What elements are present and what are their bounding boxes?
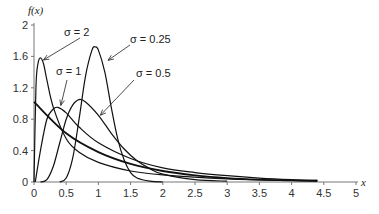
annotation-arrow (100, 80, 134, 115)
y-tick-label: 1.2 (13, 82, 28, 94)
chart: f(x) x 00.511.522.533.544.5500.40.81.21.… (0, 0, 379, 214)
curve-series (34, 102, 317, 181)
y-tick-label: 0 (22, 176, 28, 188)
annotation-arrow (43, 38, 80, 60)
arrowhead (43, 55, 49, 60)
y-tick-label: 1.6 (13, 50, 28, 62)
x-tick-label: 4.5 (316, 187, 331, 199)
x-tick-label: 4 (289, 187, 295, 199)
x-tick-label: 2.5 (187, 187, 202, 199)
x-tick-label: 0 (31, 187, 37, 199)
annotation-arrow (108, 45, 130, 60)
y-tick-label: 0.8 (13, 113, 28, 125)
curve-series (40, 99, 227, 182)
x-tick-label: 1.5 (123, 187, 138, 199)
arrowhead (108, 55, 114, 60)
annotation-sigma-0.25: σ = 0.25 (130, 33, 171, 45)
annotation-sigma-2: σ = 2 (64, 26, 89, 38)
annotation-sigma-1: σ = 1 (56, 65, 81, 77)
annotations: σ = 2 σ = 1 σ = 0.25 σ = 0.5 (43, 26, 170, 115)
x-tick-label: 5 (353, 187, 359, 199)
x-axis-label: x (360, 176, 366, 188)
x-tick-label: 3 (224, 187, 230, 199)
y-axis-label: f(x) (28, 4, 44, 17)
annotation-sigma-0.5: σ = 0.5 (136, 67, 171, 79)
x-tick-label: 2 (160, 187, 166, 199)
curve-series (35, 107, 317, 182)
x-tick-label: 3.5 (252, 187, 267, 199)
y-tick-label: 0.4 (13, 145, 28, 157)
x-tick-label: 0.5 (59, 187, 74, 199)
y-tick-label: 2 (22, 19, 28, 31)
x-tick-label: 1 (95, 187, 101, 199)
